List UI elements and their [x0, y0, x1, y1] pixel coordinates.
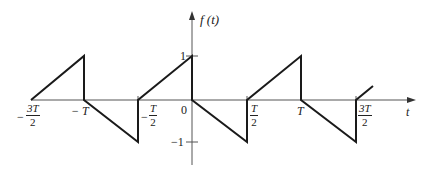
fraction-denominator: 2 — [251, 116, 257, 128]
x-tick-label-minus-T: − T — [71, 105, 89, 117]
y-tick-label-minus-1: −1 — [171, 136, 184, 148]
x-tick-label-minus-T-text: − T — [71, 104, 89, 118]
y-tick-label-1: 1 — [180, 50, 186, 62]
x-tick-label-minus-3T-2: 3T 2 — [26, 103, 40, 128]
t-axis-arrow-icon — [407, 97, 416, 103]
f-axis-arrow-icon — [189, 11, 195, 20]
x-tick-label-0: 0 — [181, 104, 187, 116]
t-axis-label: t — [406, 106, 409, 118]
fraction-denominator: 2 — [362, 116, 368, 128]
x-tick-sign-minus-3T-2: − — [17, 110, 24, 125]
fraction-numerator: T — [149, 103, 157, 116]
waveform-diagram: f (t) t 1 −1 − 3T 2 − T − T 2 0 T 2 T 3T… — [0, 0, 427, 174]
waveform-line — [31, 56, 373, 142]
x-tick-label-3T-2: 3T 2 — [358, 103, 372, 128]
x-tick-sign-minus-T-2: − — [141, 110, 148, 125]
x-tick-label-T: T — [297, 105, 304, 117]
fraction-numerator: 3T — [26, 103, 40, 116]
fraction-numerator: 3T — [358, 103, 372, 116]
x-tick-label-T-2: T 2 — [250, 103, 258, 128]
f-axis-label: f (t) — [200, 13, 219, 26]
fraction-denominator: 2 — [150, 116, 156, 128]
fraction-numerator: T — [250, 103, 258, 116]
fraction-denominator: 2 — [30, 116, 36, 128]
x-tick-label-minus-T-2: T 2 — [149, 103, 157, 128]
